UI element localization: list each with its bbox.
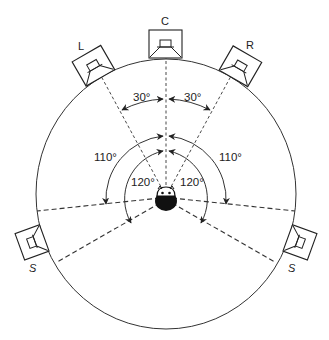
- angle-label-110-left: 110°: [94, 151, 117, 163]
- speaker-label-right: R: [246, 39, 254, 51]
- speaker-right-icon: [219, 46, 262, 87]
- speaker-center-icon: [149, 30, 182, 58]
- surround-left-110-line: [37, 198, 160, 211]
- angle-label-120-left: 120°: [131, 176, 155, 188]
- speaker-label-center: C: [161, 15, 169, 27]
- angle-label-120-right: 120°: [180, 176, 204, 188]
- speaker-surround-right-icon: [283, 225, 317, 260]
- speaker-surround-left-icon: [15, 225, 49, 260]
- speaker-label-left: L: [78, 40, 84, 52]
- speaker-label-surround-left: S: [29, 262, 37, 274]
- surround-left-120-line: [57, 203, 160, 262]
- speaker-label-surround-right: S: [288, 262, 296, 274]
- angle-label-110-right: 110°: [219, 151, 242, 163]
- listener-head-icon: [155, 186, 177, 211]
- angle-label-30-left: 30°: [133, 91, 150, 103]
- speaker-placement-diagram: 30° 30° 110° 110° 120° 120° C L R S: [0, 0, 329, 340]
- surround-right-120-line: [172, 203, 275, 262]
- surround-right-110-line: [172, 198, 295, 211]
- direction-lines: [37, 58, 295, 262]
- angle-label-30-right: 30°: [184, 91, 201, 103]
